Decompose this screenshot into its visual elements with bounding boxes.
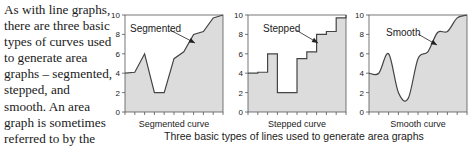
y-tick-label: 2 bbox=[239, 89, 244, 98]
y-tick-label: 10 bbox=[234, 11, 243, 20]
y-tick-label: 8 bbox=[116, 30, 121, 39]
x-axis-label: Stepped curve bbox=[268, 119, 326, 129]
y-tick-label: 6 bbox=[360, 50, 365, 59]
y-tick-label: 4 bbox=[239, 69, 244, 78]
y-tick-label: 8 bbox=[239, 30, 244, 39]
y-tick-label: 2 bbox=[360, 89, 365, 98]
curve-annotation: Stepped bbox=[263, 23, 300, 34]
x-axis-label: Segmented curve bbox=[139, 119, 210, 129]
area-graph-figure: 0246810Segmented curveSegmented0246810St… bbox=[0, 0, 471, 149]
y-tick-label: 8 bbox=[360, 30, 365, 39]
y-tick-label: 10 bbox=[111, 11, 120, 20]
y-tick-label: 0 bbox=[116, 108, 121, 117]
y-tick-label: 0 bbox=[360, 108, 365, 117]
x-axis-label: Smooth curve bbox=[390, 119, 446, 129]
y-tick-label: 6 bbox=[116, 50, 121, 59]
y-tick-label: 10 bbox=[355, 11, 364, 20]
y-tick-label: 0 bbox=[239, 108, 244, 117]
y-tick-label: 6 bbox=[239, 50, 244, 59]
y-tick-label: 4 bbox=[360, 69, 365, 78]
y-tick-label: 2 bbox=[116, 89, 121, 98]
curve-annotation: Smooth bbox=[386, 27, 420, 38]
curve-annotation: Segmented bbox=[130, 23, 181, 34]
y-tick-label: 4 bbox=[116, 69, 121, 78]
figure-caption: Three basic types of lines used to gener… bbox=[164, 130, 424, 142]
